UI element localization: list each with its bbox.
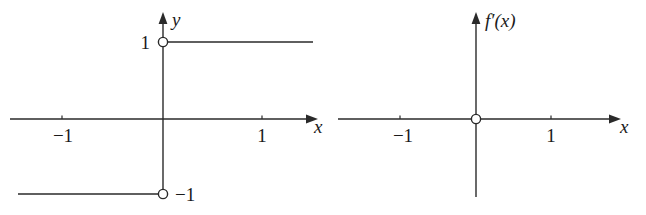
y-axis-right (472, 12, 481, 197)
y-axis-arrowhead-icon (159, 12, 168, 24)
x-tick-label-neg1: −1 (393, 125, 413, 146)
y-axis-label: y (170, 9, 181, 30)
figure-container: y x 1 −1 1 −1 f′(x) (0, 0, 646, 215)
x-axis-label: x (619, 116, 629, 137)
y-axis-arrowhead-icon (472, 12, 481, 24)
x-axis-label: x (313, 116, 323, 137)
lower-value-label: −1 (175, 184, 195, 205)
open-endpoint-lower (158, 189, 167, 198)
y-tick-label-1: 1 (141, 32, 151, 53)
x-axis-left (10, 115, 318, 124)
open-endpoint-origin (471, 114, 480, 123)
chart-panel-left: y x 1 −1 1 −1 (0, 0, 330, 215)
open-endpoint-upper (158, 37, 167, 46)
derivative-graph-svg: f′(x) x −1 1 (330, 0, 646, 215)
y-axis-label: f′(x) (485, 10, 516, 32)
x-tick-label-pos1: 1 (257, 125, 267, 146)
x-tick-label-neg1: −1 (53, 125, 73, 146)
chart-panel-right: f′(x) x −1 1 (330, 0, 646, 215)
function-graph-svg: y x 1 −1 1 −1 (0, 0, 330, 215)
x-tick-label-pos1: 1 (546, 125, 556, 146)
